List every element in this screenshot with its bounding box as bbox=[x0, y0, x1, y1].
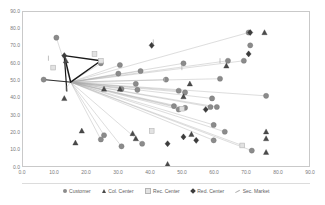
data-point bbox=[171, 104, 176, 109]
data-point bbox=[263, 136, 268, 141]
data-point bbox=[98, 137, 103, 142]
data-point bbox=[119, 144, 124, 149]
data-point bbox=[262, 30, 267, 35]
tick-marker-icon bbox=[235, 189, 240, 194]
data-point bbox=[98, 58, 103, 63]
data-point bbox=[209, 96, 214, 101]
data-point bbox=[140, 141, 145, 146]
x-tick-label: 20.0 bbox=[75, 170, 97, 175]
data-point bbox=[138, 68, 143, 73]
data-point bbox=[263, 129, 268, 134]
legend-item-rec-center[interactable]: Rec. Center bbox=[145, 188, 180, 194]
x-tick-label: 10.0 bbox=[43, 170, 65, 175]
triangle-marker-icon bbox=[102, 189, 106, 193]
legend-label-sec-market: Sec. Market bbox=[243, 188, 270, 194]
network-spokes bbox=[44, 33, 266, 151]
data-point bbox=[264, 93, 269, 98]
y-tick-label: 70.0 bbox=[1, 43, 20, 48]
data-point bbox=[101, 133, 106, 138]
plot-canvas bbox=[23, 12, 309, 166]
data-point bbox=[222, 129, 227, 134]
data-point bbox=[241, 58, 246, 63]
data-point bbox=[62, 96, 67, 101]
chart-legend: Customer Col. Center Rec. Center Red. Ce… bbox=[22, 183, 310, 198]
legend-item-red-center[interactable]: Red. Center bbox=[191, 188, 224, 194]
y-tick-label: 50.0 bbox=[1, 78, 20, 83]
data-point bbox=[165, 161, 170, 166]
legend-item-col-center[interactable]: Col. Center bbox=[102, 188, 134, 194]
data-point bbox=[240, 143, 245, 148]
y-tick-label: 30.0 bbox=[1, 113, 20, 118]
y-tick-label: 10.0 bbox=[1, 147, 20, 152]
data-point bbox=[51, 65, 56, 70]
legend-label-red-center: Red. Center bbox=[197, 188, 224, 194]
data-point bbox=[133, 81, 138, 86]
data-point bbox=[248, 43, 253, 48]
x-tick-label: 70.0 bbox=[235, 170, 257, 175]
data-point bbox=[180, 106, 185, 111]
data-point bbox=[130, 131, 135, 136]
data-point bbox=[117, 62, 122, 67]
data-point bbox=[41, 77, 46, 82]
y-tick-label: 60.0 bbox=[1, 61, 20, 66]
circle-marker-icon bbox=[63, 189, 67, 193]
legend-label-rec-center: Rec. Center bbox=[153, 188, 180, 194]
y-tick-label: 90.0 bbox=[1, 9, 20, 14]
scatter-chart: 0.010.020.030.040.050.060.070.080.090.0 … bbox=[0, 0, 325, 205]
x-tick-label: 0.0 bbox=[11, 170, 33, 175]
x-tick-label: 30.0 bbox=[107, 170, 129, 175]
y-tick-label: 80.0 bbox=[1, 26, 20, 31]
data-point bbox=[187, 81, 192, 86]
legend-label-col-center: Col. Center bbox=[108, 188, 133, 194]
data-point bbox=[217, 76, 222, 81]
data-point bbox=[263, 149, 268, 154]
square-marker-icon bbox=[145, 188, 151, 194]
data-point bbox=[149, 129, 154, 134]
data-point bbox=[79, 128, 84, 133]
data-point bbox=[176, 88, 181, 93]
data-point bbox=[135, 87, 140, 92]
data-point bbox=[181, 134, 186, 140]
data-point bbox=[194, 137, 199, 143]
legend-item-sec-market[interactable]: Sec. Market bbox=[235, 188, 269, 194]
data-point bbox=[165, 141, 170, 147]
plot-area bbox=[22, 11, 310, 167]
data-point bbox=[246, 51, 251, 57]
x-tick-label: 50.0 bbox=[171, 170, 193, 175]
data-point bbox=[116, 71, 121, 76]
data-point bbox=[73, 140, 78, 145]
x-tick-label: 90.0 bbox=[299, 170, 321, 175]
legend-item-customer[interactable]: Customer bbox=[63, 188, 91, 194]
data-point bbox=[211, 138, 216, 143]
data-point bbox=[249, 148, 254, 153]
data-point bbox=[92, 52, 97, 57]
y-tick-label: 0.0 bbox=[1, 165, 20, 170]
data-point bbox=[208, 104, 213, 109]
x-tick-label: 80.0 bbox=[267, 170, 289, 175]
series-customer bbox=[41, 30, 269, 153]
data-point bbox=[214, 104, 219, 109]
data-point bbox=[211, 122, 216, 127]
x-tick-label: 60.0 bbox=[203, 170, 225, 175]
series-col-center bbox=[62, 30, 269, 166]
y-tick-label: 20.0 bbox=[1, 130, 20, 135]
data-point bbox=[203, 106, 208, 112]
legend-label-customer: Customer bbox=[69, 188, 91, 194]
data-point bbox=[225, 58, 230, 63]
x-tick-label: 40.0 bbox=[139, 170, 161, 175]
y-tick-label: 40.0 bbox=[1, 95, 20, 100]
diamond-marker-icon bbox=[190, 188, 196, 194]
data-point bbox=[224, 63, 229, 68]
data-point bbox=[62, 53, 67, 59]
data-point bbox=[54, 35, 59, 40]
